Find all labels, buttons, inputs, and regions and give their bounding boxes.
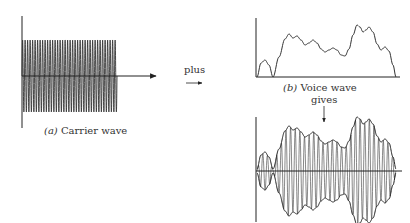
plus-label: plus (184, 64, 205, 75)
voice-wave (257, 25, 396, 77)
carrier-wave-panel (22, 16, 156, 128)
voice-caption: (b) Voice wave (283, 82, 357, 93)
carrier-caption-text: Carrier wave (61, 125, 127, 136)
voice-caption-text: Voice wave (300, 82, 356, 93)
gives-label: gives (311, 94, 337, 105)
modulated-wave-panel (256, 117, 402, 223)
carrier-caption: (a) Carrier wave (44, 125, 127, 136)
voice-wave-panel (256, 18, 400, 77)
voice-caption-prefix: (b) (283, 82, 297, 93)
carrier-caption-prefix: (a) (44, 125, 58, 136)
diagram-canvas (0, 0, 410, 223)
